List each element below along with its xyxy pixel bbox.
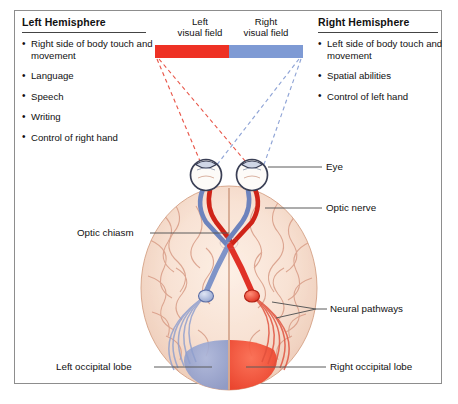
right-occipital-lobe-label: Right occipital lobe: [330, 361, 412, 372]
right-visual-field-label-line2: visual field: [233, 27, 299, 38]
list-item: Control of right hand: [22, 132, 154, 144]
left-visual-field-label-line1: Left: [168, 16, 232, 27]
list-item: Spatial abilities: [318, 70, 444, 82]
eye-label: Eye: [326, 161, 343, 172]
left-eye: [191, 160, 222, 191]
right-heading-rule: [318, 32, 438, 33]
list-item: Right side of body touch and movement: [22, 38, 154, 61]
visual-pathway-diagram: Left Hemisphere Right side of body touch…: [0, 0, 458, 404]
right-visual-field-bar: [229, 45, 303, 58]
optic-chiasm-label: Optic chiasm: [77, 227, 134, 238]
left-hemisphere-list: Right side of body touch and movement La…: [22, 38, 154, 144]
list-item: Writing: [22, 111, 154, 123]
right-occipital-lobe-shape: [230, 340, 277, 392]
list-item: Language: [22, 70, 154, 82]
right-hemisphere-heading: Right Hemisphere: [318, 16, 444, 29]
right-hemisphere-list: Left side of body touch and movement Spa…: [318, 38, 444, 102]
brain-superior-view: [141, 186, 317, 390]
list-item: Left side of body touch and movement: [318, 38, 444, 61]
list-item: Speech: [22, 91, 154, 103]
neural-pathways-label: Neural pathways: [330, 303, 403, 314]
left-occipital-lobe-label: Left occipital lobe: [56, 361, 132, 372]
sightline-red-to-left-eye: [157, 59, 205, 173]
left-heading-rule: [22, 32, 146, 33]
left-hemisphere-panel: Left Hemisphere Right side of body touch…: [22, 16, 154, 153]
right-visual-field-label-line1: Right: [233, 16, 299, 27]
sightline-red-to-right-eye: [159, 59, 257, 175]
right-visual-field-label: Right visual field: [233, 16, 299, 39]
visual-field-bars: [155, 45, 303, 58]
left-visual-field-label-line2: visual field: [168, 27, 232, 38]
left-visual-field-label: Left visual field: [168, 16, 232, 39]
sightline-blue-to-left-eye: [209, 59, 299, 175]
left-hemisphere-heading: Left Hemisphere: [22, 16, 154, 29]
left-lateral-geniculate-nucleus: [199, 290, 214, 302]
list-item: Control of left hand: [318, 91, 444, 103]
left-visual-field-bar: [155, 45, 229, 58]
right-eye: [237, 160, 268, 191]
occipital-lobes: [184, 340, 277, 392]
sightline-blue-to-right-eye: [261, 59, 301, 173]
right-lateral-geniculate-nucleus: [245, 290, 260, 302]
right-hemisphere-panel: Right Hemisphere Left side of body touch…: [318, 16, 444, 111]
sight-lines: [157, 59, 301, 175]
optic-nerve-label: Optic nerve: [326, 202, 376, 213]
